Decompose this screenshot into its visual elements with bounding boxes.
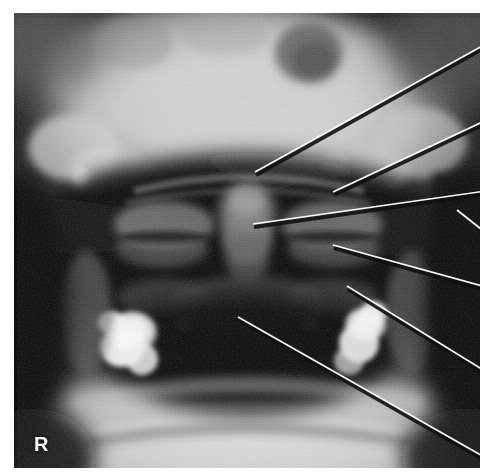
left-margin-mask bbox=[0, 0, 14, 474]
bottom-margin-mask bbox=[0, 468, 493, 474]
side-marker-R: R bbox=[34, 434, 48, 454]
xray-raster bbox=[14, 13, 480, 468]
radiograph-page: R bbox=[0, 0, 493, 474]
top-margin-mask bbox=[0, 0, 493, 13]
right-margin-mask bbox=[480, 0, 493, 474]
xray-image: R bbox=[14, 13, 480, 468]
